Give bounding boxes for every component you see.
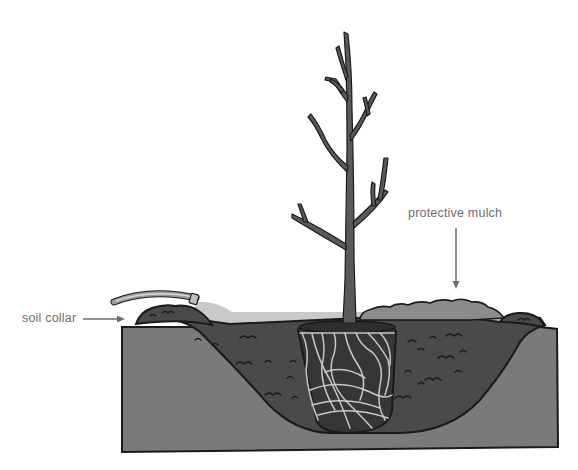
protective-mulch-label: protective mulch <box>408 206 502 220</box>
branch <box>308 114 348 172</box>
hose-nozzle <box>189 293 199 305</box>
tree <box>292 32 388 323</box>
planting-diagram <box>0 0 578 470</box>
soil-collar-arrow <box>83 316 125 323</box>
soil-collar-label: soil collar <box>22 311 76 325</box>
protective-mulch <box>360 299 504 320</box>
branch <box>292 214 346 250</box>
hose <box>114 293 199 305</box>
protective-mulch-arrow <box>453 228 460 289</box>
branch <box>371 182 376 206</box>
branch <box>325 77 348 102</box>
